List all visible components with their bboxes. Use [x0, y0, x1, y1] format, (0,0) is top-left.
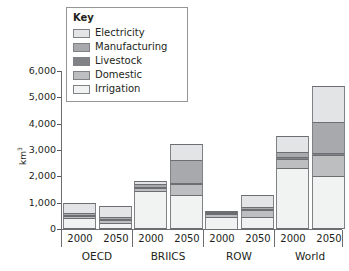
x-axis-year-label: 2000	[60, 232, 100, 245]
y-axis-tick-label: 4,000	[22, 119, 56, 129]
x-axis-year-label: 2050	[96, 232, 136, 245]
bar-segment-irrigation	[63, 218, 96, 229]
legend-label: Electricity	[95, 27, 145, 39]
bar-briics-2000	[134, 181, 167, 229]
bar-segment-irrigation	[312, 176, 345, 229]
x-axis-year-label: 2050	[167, 232, 207, 245]
bar-segment-domestic	[241, 210, 274, 217]
bar-segment-domestic	[170, 184, 203, 195]
legend-entry: Livestock	[73, 54, 182, 68]
bar-segment-electricity	[99, 206, 132, 217]
bar-segment-electricity	[170, 144, 203, 160]
legend-swatch-manufacturing	[73, 43, 90, 52]
x-axis-year-label: 2000	[273, 232, 313, 245]
bar-segment-manufacturing	[312, 122, 345, 153]
legend-entry: Manufacturing	[73, 40, 182, 54]
bar-segment-electricity	[241, 195, 274, 207]
bar-segment-irrigation	[170, 195, 203, 229]
x-axis-year-label: 2000	[131, 232, 171, 245]
bar-segment-electricity	[63, 203, 96, 213]
bar-row-2050	[241, 195, 274, 229]
x-axis-year-label: 2050	[238, 232, 278, 245]
bar-segment-irrigation	[241, 217, 274, 229]
bar-segment-domestic	[276, 159, 309, 167]
x-axis-group-label: OECD	[57, 250, 137, 263]
legend-label: Irrigation	[95, 83, 140, 95]
y-axis-tick-labels: 6,0005,0004,0003,0002,0001,0000	[16, 0, 56, 271]
bar-segment-domestic	[312, 155, 345, 176]
x-axis-year-label: 2050	[309, 232, 349, 245]
x-axis-group-label: BRIICS	[128, 250, 208, 263]
y-axis-tick-label: 1,000	[22, 198, 56, 208]
bar-segment-irrigation	[205, 217, 238, 230]
legend-swatch-irrigation	[73, 85, 90, 94]
legend-label: Domestic	[95, 69, 142, 81]
bar-briics-2050	[170, 144, 203, 229]
x-axis-year-label: 2000	[202, 232, 242, 245]
bar-segment-irrigation	[134, 191, 167, 229]
legend-label: Manufacturing	[95, 41, 167, 53]
x-axis-group-label: ROW	[199, 250, 279, 263]
bar-world-2000	[276, 136, 309, 229]
y-axis-tick-label: 0	[22, 224, 56, 234]
legend-title: Key	[73, 12, 182, 24]
bar-oecd-2000	[63, 203, 96, 229]
legend-swatch-livestock	[73, 57, 90, 66]
bar-segment-electricity	[276, 136, 309, 152]
bar-segment-irrigation	[276, 168, 309, 229]
legend-label: Livestock	[95, 55, 142, 67]
bar-segment-manufacturing	[170, 160, 203, 183]
legend-swatch-domestic	[73, 71, 90, 80]
bar-oecd-2050	[99, 206, 132, 229]
y-axis-tick-label: 2,000	[22, 171, 56, 181]
bar-world-2050	[312, 86, 345, 229]
x-axis-group-label: World	[270, 250, 349, 263]
legend-entry: Electricity	[73, 26, 182, 40]
y-axis-tick-label: 5,000	[22, 92, 56, 102]
legend-swatch-electricity	[73, 29, 90, 38]
legend-entry: Domestic	[73, 68, 182, 82]
bar-row-2000	[205, 211, 238, 229]
y-axis-tick-label: 6,000	[22, 66, 56, 76]
legend-entry: Irrigation	[73, 82, 182, 96]
legend-entries: ElectricityManufacturingLivestockDomesti…	[73, 26, 182, 96]
bar-segment-irrigation	[99, 223, 132, 230]
bar-segment-electricity	[312, 86, 345, 122]
y-axis-tick-label: 3,000	[22, 145, 56, 155]
legend: Key ElectricityManufacturingLivestockDom…	[66, 7, 188, 102]
